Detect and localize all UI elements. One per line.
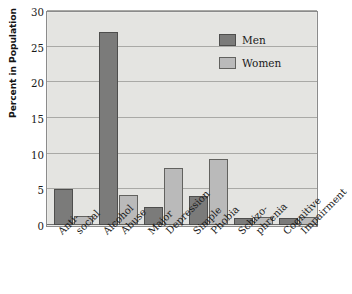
legend-item-women[interactable]: Women [219, 51, 305, 74]
y-tick-label-10: 10 [16, 149, 44, 160]
legend-item-men[interactable]: Men [219, 28, 305, 51]
legend: Men Women [219, 28, 305, 74]
bar-group [54, 11, 94, 225]
legend-label-men: Men [242, 34, 266, 46]
y-tick-label-30: 30 [16, 7, 44, 18]
y-tick-label-20: 20 [16, 78, 44, 89]
dark-gray-swatch-icon [219, 34, 236, 46]
y-tick-label-15: 15 [16, 114, 44, 125]
legend-label-women: Women [242, 57, 281, 69]
y-tick-label-5: 5 [16, 185, 44, 196]
x-axis-tick-labels: Anti-socialAlcoholAbuseMajorDepressionSi… [46, 229, 318, 294]
light-gray-swatch-icon [219, 57, 236, 69]
y-tick-label-25: 25 [16, 42, 44, 53]
y-tick-label-0: 0 [16, 221, 44, 232]
